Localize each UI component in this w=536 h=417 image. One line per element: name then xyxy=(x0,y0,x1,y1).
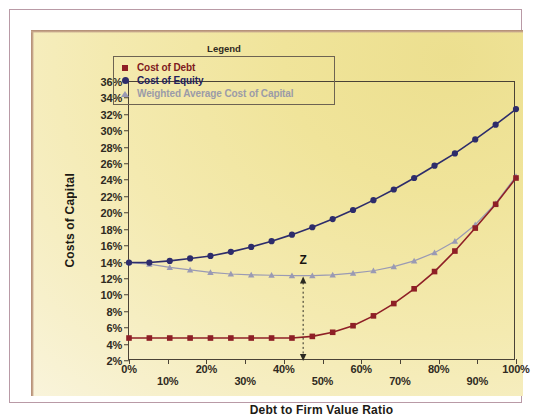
x-tick-label: 40% xyxy=(273,363,294,375)
annotation-arrowhead xyxy=(300,354,306,361)
legend-label-cost-of-debt: Cost of Debt xyxy=(137,62,195,73)
legend-label-wacc: Weighted Average Cost of Capital xyxy=(137,88,293,99)
chart-page: Costs of Capital Debt to Firm Value Rati… xyxy=(0,0,536,417)
x-tick-label: 0% xyxy=(121,363,137,375)
data-point-marker xyxy=(289,335,295,341)
triangle-marker-icon xyxy=(120,91,130,97)
series-weighted-average-cost-of-capital xyxy=(126,173,519,278)
x-tick-label: 80% xyxy=(428,363,449,375)
data-point-marker xyxy=(411,286,417,292)
data-point-marker xyxy=(330,329,336,335)
data-point-marker xyxy=(452,248,458,254)
data-point-marker xyxy=(513,175,519,181)
data-point-marker xyxy=(207,253,213,259)
data-point-marker xyxy=(472,225,478,231)
annotation-z-arrow xyxy=(300,276,306,361)
data-point-marker xyxy=(370,197,376,203)
data-point-marker xyxy=(289,232,295,238)
series-line xyxy=(129,109,516,262)
series-cost-of-debt xyxy=(126,175,519,341)
data-point-marker xyxy=(330,216,336,222)
x-tick-label: 10% xyxy=(157,375,178,387)
x-tick-label: 70% xyxy=(389,375,410,387)
plot-area: 2%4%6%8%10%12%14%16%18%20%22%24%26%28%30… xyxy=(128,81,515,360)
data-point-marker xyxy=(493,201,499,207)
x-tick-label: 50% xyxy=(312,375,333,387)
data-point-marker xyxy=(391,301,397,307)
data-point-marker xyxy=(371,313,377,319)
x-tick-label: 20% xyxy=(196,363,217,375)
data-point-marker xyxy=(452,150,458,156)
x-tick-mark xyxy=(516,359,517,364)
data-point-marker xyxy=(309,224,315,230)
annotation-arrowhead xyxy=(300,276,306,283)
series-line xyxy=(129,176,516,275)
data-point-marker xyxy=(187,255,193,261)
page-frame: Costs of Capital Debt to Firm Value Rati… xyxy=(9,9,522,403)
data-point-marker xyxy=(268,238,274,244)
legend: Legend Cost of Debt Cost of Equity Weigh… xyxy=(113,43,335,105)
circle-marker-icon xyxy=(120,77,130,84)
data-point-marker xyxy=(431,249,437,255)
data-point-marker xyxy=(248,244,254,250)
x-axis-title: Debt to Firm Value Ratio xyxy=(128,403,515,417)
data-point-marker xyxy=(167,258,173,264)
data-point-marker xyxy=(228,249,234,255)
data-point-marker xyxy=(493,122,499,128)
data-point-marker xyxy=(350,323,356,329)
data-point-marker xyxy=(228,335,234,341)
x-tick-label: 90% xyxy=(467,375,488,387)
data-point-marker xyxy=(431,163,437,169)
legend-item-cost-of-equity: Cost of Equity xyxy=(120,74,326,87)
annotation-z-label: Z xyxy=(299,253,306,267)
chart-panel: Costs of Capital Debt to Firm Value Rati… xyxy=(31,30,523,396)
data-point-marker xyxy=(269,335,275,341)
x-tick-label: 60% xyxy=(350,363,371,375)
legend-box: Cost of Debt Cost of Equity Weighted Ave… xyxy=(113,56,335,105)
data-point-marker xyxy=(126,259,132,265)
data-point-marker xyxy=(167,335,173,341)
data-point-marker xyxy=(126,335,132,341)
legend-title: Legend xyxy=(113,43,335,54)
x-tick-label: 30% xyxy=(234,375,255,387)
series-layer xyxy=(129,82,516,361)
data-point-marker xyxy=(147,335,153,341)
data-point-marker xyxy=(208,335,214,341)
x-tick-label: 100% xyxy=(502,363,529,375)
data-point-marker xyxy=(248,335,254,341)
series-cost-of-equity xyxy=(126,106,519,266)
data-point-marker xyxy=(432,269,438,275)
data-point-marker xyxy=(391,186,397,192)
data-point-marker xyxy=(411,175,417,181)
square-marker-icon xyxy=(120,65,130,71)
data-point-marker xyxy=(310,334,316,340)
y-axis-title-text: Costs of Capital xyxy=(63,173,77,268)
y-axis-title: Costs of Capital xyxy=(61,81,79,360)
data-point-marker xyxy=(472,136,478,142)
legend-item-wacc: Weighted Average Cost of Capital xyxy=(120,87,326,100)
data-point-marker xyxy=(350,207,356,213)
data-point-marker xyxy=(513,106,519,112)
legend-label-cost-of-equity: Cost of Equity xyxy=(137,75,203,86)
data-point-marker xyxy=(187,335,193,341)
legend-item-cost-of-debt: Cost of Debt xyxy=(120,61,326,74)
data-point-marker xyxy=(146,259,152,265)
